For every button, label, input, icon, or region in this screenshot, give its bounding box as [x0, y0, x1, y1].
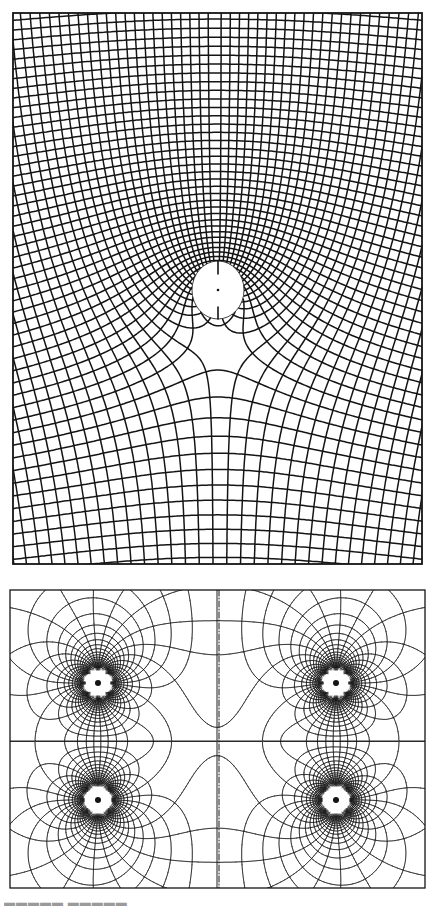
- singular-point-1: [95, 680, 101, 686]
- singular-point-3: [95, 797, 101, 803]
- top-conformal-grid: [0, 0, 437, 580]
- figure-caption-clipped: ▬▬▬▬▬ ▬▬▬▬▬: [4, 897, 154, 907]
- top-grid-panel: [0, 0, 437, 580]
- bottom-grid-panel: [0, 580, 437, 895]
- bottom-field-line-grid: [0, 580, 437, 895]
- singular-point-4: [333, 797, 339, 803]
- hole-center-dot: [217, 289, 220, 292]
- top-grid-lines: [9, 9, 427, 569]
- singular-point-2: [333, 680, 339, 686]
- bottom-grid-lines: [8, 588, 428, 890]
